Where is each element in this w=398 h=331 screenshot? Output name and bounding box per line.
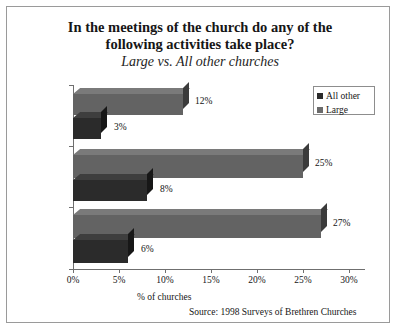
x-axis-label-0: 0% bbox=[56, 275, 90, 285]
x-axis-tick bbox=[119, 269, 120, 273]
x-axis-tick bbox=[211, 269, 212, 273]
data-label-prophecy-large: 8% bbox=[160, 184, 173, 194]
bar-side-face bbox=[303, 143, 309, 172]
chart-title: In the meetings of the church do any of … bbox=[37, 19, 363, 53]
x-axis-tick bbox=[73, 269, 74, 273]
x-axis-label-10: 10% bbox=[148, 275, 182, 285]
chart-subtitle: Large vs. All other churches bbox=[37, 54, 363, 70]
bar-side-face bbox=[128, 228, 134, 257]
bar-side-face bbox=[183, 82, 189, 109]
x-axis-label-15: 15% bbox=[194, 275, 228, 285]
x-axis-label-30: 30% bbox=[332, 275, 366, 285]
x-axis-label-5: 5% bbox=[102, 275, 136, 285]
x-axis-label-25: 25% bbox=[286, 275, 320, 285]
data-label-prophecy-all-other: 25% bbox=[315, 158, 332, 168]
bar-side-face bbox=[321, 203, 327, 232]
bar-front-face bbox=[73, 240, 128, 263]
y-axis-tick bbox=[69, 85, 73, 86]
data-label-healing-large: 6% bbox=[141, 244, 154, 254]
y-axis-tick bbox=[69, 146, 73, 147]
bar-prophecy-large[interactable] bbox=[73, 180, 147, 201]
data-label-tongues-large: 3% bbox=[114, 122, 127, 132]
data-label-tongues-all-other: 12% bbox=[195, 96, 212, 106]
bar-front-face bbox=[73, 118, 101, 139]
bar-front-face bbox=[73, 180, 147, 201]
chart-title-line-1: In the meetings of the church do any of … bbox=[37, 19, 363, 36]
x-axis-label-20: 20% bbox=[240, 275, 274, 285]
chart-title-line-2: following activities take place? bbox=[37, 36, 363, 53]
bar-tongues-large[interactable] bbox=[73, 118, 101, 139]
plot-area: Tongues Prophecy Healing 12% 3% 25% 8% bbox=[73, 85, 373, 269]
bar-side-face bbox=[147, 168, 153, 195]
data-label-healing-all-other: 27% bbox=[333, 218, 350, 228]
x-axis-title: % of churches bbox=[137, 292, 191, 302]
x-axis-tick bbox=[303, 269, 304, 273]
x-axis-tick bbox=[349, 269, 350, 273]
bar-healing-large[interactable] bbox=[73, 240, 128, 263]
y-axis-tick bbox=[69, 207, 73, 208]
chart-frame: In the meetings of the church do any of … bbox=[6, 6, 390, 323]
x-axis-line bbox=[73, 269, 365, 270]
bar-side-face bbox=[101, 106, 107, 133]
x-axis-tick bbox=[165, 269, 166, 273]
x-axis-tick bbox=[257, 269, 258, 273]
source-note: Source: 1998 Surveys of Brethren Churche… bbox=[189, 307, 357, 317]
